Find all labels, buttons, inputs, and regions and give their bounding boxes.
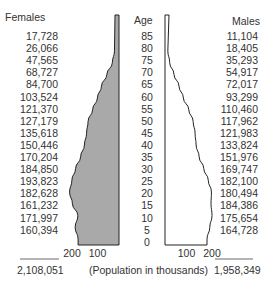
male-value-label: 151,976 [220,151,258,163]
male-value-label: 182,100 [220,175,258,187]
female-value-label: 170,204 [20,151,58,163]
age-tick-label: 45 [141,127,153,139]
female-value-label: 84,700 [26,78,58,90]
male-value-label: 133,824 [220,139,258,151]
female-value-label: 127,179 [20,115,58,127]
female-value-label: 17,728 [26,30,58,42]
age-tick-label: 70 [141,66,153,78]
age-tick-label: 75 [141,54,153,66]
male-value-label: 175,654 [220,212,258,224]
males-title: Males [232,15,260,27]
female-value-label: 182,628 [20,187,58,199]
age-tick-label: 60 [141,91,153,103]
male-value-label: 54,917 [226,66,258,78]
female-value-label: 47,565 [26,54,58,66]
age-tick-label: 35 [141,151,153,163]
female-value-label: 103,524 [20,91,58,103]
age-tick-label: 65 [141,78,153,90]
age-tick-label: 15 [141,199,153,211]
female-value-label: 160,394 [20,224,58,236]
x-tick-label-males: 100 [178,247,196,259]
female-value-label: 135,618 [20,127,58,139]
female-value-label: 68,727 [26,66,58,78]
age-tick-label: 10 [141,212,153,224]
male-value-label: 18,405 [226,42,258,54]
females-total: 2,108,051 [17,264,64,276]
male-value-label: 117,962 [221,115,258,127]
age-tick-label: 80 [141,42,153,54]
x-tick-label-males: 200 [203,247,221,259]
females-area [70,15,119,245]
population-pyramid-chart: Females Age Males 17,72826,06647,56568,7… [0,0,272,291]
age-axis-title: Age [134,14,153,26]
male-value-label: 35,293 [226,54,258,66]
male-value-label: 180,494 [220,187,258,199]
male-value-label: 164,728 [220,224,258,236]
female-value-label: 121,370 [20,103,58,115]
male-value-label: 110,460 [221,103,258,115]
male-value-label: 93,299 [226,91,258,103]
female-value-label: 161,232 [20,199,58,211]
male-value-label: 121,983 [220,127,258,139]
female-value-label: 150,446 [20,139,58,151]
age-tick-label: 5 [144,224,150,236]
male-value-label: 169,747 [220,163,258,175]
females-title: Females [5,11,45,23]
x-tick-label-females: 100 [89,247,107,259]
female-value-label: 26,066 [26,42,58,54]
males-total: 1,958,349 [214,264,261,276]
age-tick-label: 55 [141,103,153,115]
age-tick-label: 85 [141,30,153,42]
female-value-label: 171,997 [20,212,58,224]
age-tick-label: 40 [141,139,153,151]
male-value-label: 11,104 [227,30,258,42]
age-tick-label: 30 [141,163,153,175]
males-area [165,15,212,245]
female-value-label: 184,850 [20,163,58,175]
age-tick-label: 0 [144,236,150,248]
x-axis-label: (Population in thousands) [89,264,208,276]
male-value-label: 72,017 [226,78,258,90]
x-tick-label-females: 200 [63,247,81,259]
age-tick-label: 50 [141,115,153,127]
age-tick-label: 25 [141,175,153,187]
age-tick-label: 20 [141,187,153,199]
female-value-label: 193,823 [20,175,58,187]
male-value-label: 184,386 [220,199,258,211]
